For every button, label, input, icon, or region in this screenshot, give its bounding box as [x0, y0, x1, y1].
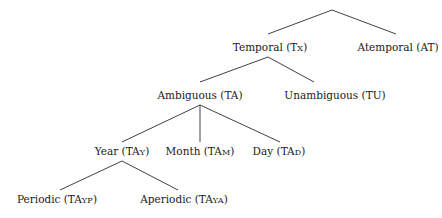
edge-temporal-to-unambiguous: [268, 57, 314, 82]
edge-root-to-atemporal: [332, 10, 396, 34]
node-name: Day: [253, 145, 274, 157]
edge-temporal-to-ambiguous: [200, 57, 268, 82]
node-abbreviation: AT: [420, 41, 434, 53]
node-abbreviation: TU: [366, 89, 382, 101]
node-abbreviation: TA: [68, 193, 82, 205]
node-name: Year: [95, 145, 119, 157]
edge-ambiguous-to-day: [200, 105, 280, 142]
edge-ambiguous-to-year: [122, 105, 200, 142]
node-abbreviation: TA: [199, 193, 213, 205]
node-abbreviation-subscript: D: [295, 148, 302, 157]
edge-year-to-aperiodic: [122, 161, 178, 190]
taxonomy-tree-diagram: Temporal (TX)Atemporal (AT)Ambiguous (TA…: [0, 0, 442, 218]
node-abbreviation: TA: [224, 89, 238, 101]
node-periodic: Periodic (TAYP): [17, 194, 97, 205]
node-abbreviation-subscript: YA: [213, 196, 224, 205]
node-day: Day (TAD): [253, 146, 306, 157]
node-name: Aperiodic: [140, 193, 191, 205]
node-year: Year (TAY): [95, 146, 150, 157]
node-name: Unambiguous: [284, 89, 358, 101]
node-abbreviation-subscript: YP: [82, 196, 93, 205]
edge-year-to-periodic: [60, 161, 122, 190]
node-abbreviation: T: [290, 41, 297, 53]
node-temporal: Temporal (TX): [233, 42, 308, 53]
node-ambiguous: Ambiguous (TA): [157, 90, 242, 101]
node-abbreviation-subscript: Y: [140, 148, 145, 157]
node-abbreviation: TA: [208, 145, 222, 157]
edge-root-to-temporal: [268, 10, 332, 34]
node-atemporal: Atemporal (AT): [357, 42, 438, 53]
node-name: Periodic: [17, 193, 60, 205]
node-abbreviation-subscript: X: [297, 44, 303, 53]
node-unambiguous: Unambiguous (TU): [284, 90, 385, 101]
node-month: Month (TAM): [166, 146, 235, 157]
node-name: Temporal: [233, 41, 283, 53]
node-name: Month: [166, 145, 201, 157]
node-name: Atemporal: [357, 41, 412, 53]
node-name: Ambiguous: [157, 89, 217, 101]
node-abbreviation-subscript: M: [222, 148, 230, 157]
node-abbreviation: TA: [281, 145, 295, 157]
node-abbreviation: TA: [126, 145, 140, 157]
tree-edges: [0, 0, 442, 218]
node-aperiodic: Aperiodic (TAYA): [140, 194, 228, 205]
